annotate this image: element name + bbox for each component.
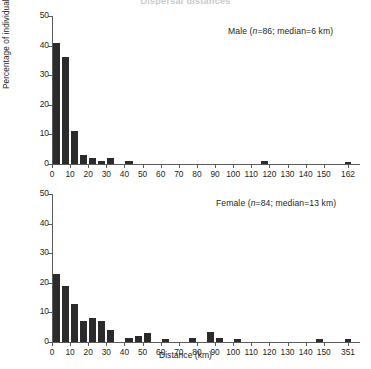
x-tick-male-50: [143, 165, 144, 168]
x-tick-male-140: [306, 165, 307, 168]
x-tick-female-70: [179, 343, 180, 346]
x-tick-male-10: [70, 165, 71, 168]
y-tick-label-male-30: 30: [40, 69, 49, 80]
x-axis-female: [52, 342, 360, 343]
bar-male-5-10: [62, 57, 69, 164]
y-tick-label-wrap: 10: [52, 312, 53, 313]
legend-male-prefix: Male (: [228, 26, 252, 36]
bar-male-15-20: [80, 155, 87, 164]
bar-female-85-90: [207, 332, 214, 342]
x-tick-female-50: [143, 343, 144, 346]
bar-female-20-25: [89, 318, 96, 342]
y-tick-label-wrap: 40: [52, 46, 53, 47]
bar-male-115-120: [261, 161, 268, 164]
bar-male-160-165: [345, 162, 351, 164]
y-tick-label-male-10: 10: [40, 128, 49, 139]
panel-divider: [0, 186, 371, 189]
plot-area-female: 0102030405001020304050607080901001101201…: [52, 194, 360, 342]
x-tick-label-male-140: 140: [299, 169, 313, 180]
x-tick-female-130: [288, 343, 289, 346]
x-tick-label-male-90: 90: [210, 169, 219, 180]
x-tick-label-male-70: 70: [174, 169, 183, 180]
bar-female-145-150: [316, 339, 323, 342]
x-tick-label-male-80: 80: [192, 169, 201, 180]
bars-female: [52, 194, 360, 342]
x-tick-male-60: [161, 165, 162, 168]
bar-female-60-65: [162, 339, 169, 342]
y-tick-label-wrap: 40: [52, 224, 53, 225]
x-tick-male-130: [288, 165, 289, 168]
x-tick-label-male-30: 30: [102, 169, 111, 180]
x-tick-label-male-110: 110: [245, 169, 258, 180]
x-tick-male-80: [197, 165, 198, 168]
y-tick-label-male-0: 0: [44, 158, 49, 169]
x-tick-male-150: [324, 165, 325, 168]
x-tick-label-male-130: 130: [281, 169, 295, 180]
x-tick-label-male-100: 100: [226, 169, 240, 180]
y-tick-label-wrap: 20: [52, 105, 53, 106]
bar-female-45-50: [135, 336, 142, 342]
bar-female-160-165: [345, 339, 351, 342]
x-tick-female-351: [348, 343, 349, 346]
x-tick-label-male-0: 0: [50, 169, 55, 180]
x-tick-female-20: [88, 343, 89, 346]
y-tick-label-female-20: 20: [40, 277, 49, 288]
legend-male: Male (n=86; median=6 km): [228, 26, 333, 36]
figure: Dispersal distances Percentage of indivi…: [0, 0, 371, 369]
y-axis-label-text: Percentage of individuals: [2, 0, 11, 112]
x-tick-female-10: [70, 343, 71, 346]
bar-female-75-80: [189, 338, 196, 342]
x-tick-male-162: [348, 165, 349, 168]
bar-female-90-95: [216, 338, 223, 342]
bar-male-25-30: [98, 161, 105, 164]
y-tick-label-wrap: 30: [52, 253, 53, 254]
bars-male: [52, 16, 360, 164]
x-tick-male-30: [106, 165, 107, 168]
x-tick-male-90: [215, 165, 216, 168]
x-tick-male-110: [251, 165, 252, 168]
bar-female-100-105: [234, 339, 241, 342]
y-tick-label-wrap: 50: [52, 194, 53, 195]
x-tick-label-male-150: 150: [317, 169, 331, 180]
legend-female-prefix: Female (: [216, 198, 251, 208]
y-tick-label-wrap: 10: [52, 134, 53, 135]
bar-female-40-45: [125, 338, 132, 342]
bar-male-30-35: [107, 158, 114, 164]
bar-male-10-15: [71, 131, 78, 164]
y-tick-label-wrap: 30: [52, 75, 53, 76]
x-axis-label: Distance (km): [0, 350, 371, 360]
x-tick-female-90: [215, 343, 216, 346]
bar-male-0-5: [53, 43, 60, 164]
y-tick-label-female-40: 40: [40, 218, 49, 229]
x-tick-female-60: [161, 343, 162, 346]
y-tick-label-female-50: 50: [40, 188, 49, 199]
x-tick-female-120: [269, 343, 270, 346]
x-tick-male-70: [179, 165, 180, 168]
x-tick-female-150: [324, 343, 325, 346]
legend-female: Female (n=84; median=13 km): [216, 198, 336, 208]
y-axis-label: Percentage of individuals: [2, 0, 14, 112]
x-tick-female-40: [124, 343, 125, 346]
y-tick-label-male-50: 50: [40, 10, 49, 21]
figure-title-remnant: Dispersal distances: [0, 0, 371, 5]
x-tick-label-male-60: 60: [156, 169, 165, 180]
x-tick-male-0: [52, 165, 53, 168]
y-tick-label-male-40: 40: [40, 40, 49, 51]
x-axis-male: [52, 164, 360, 165]
y-tick-label-female-0: 0: [44, 336, 49, 347]
y-tick-label-wrap: 50: [52, 16, 53, 17]
bar-female-30-35: [107, 330, 114, 342]
x-tick-label-male-20: 20: [84, 169, 93, 180]
x-tick-label-male-40: 40: [120, 169, 129, 180]
x-tick-male-100: [233, 165, 234, 168]
y-tick-label-female-10: 10: [40, 306, 49, 317]
x-tick-label-male-120: 120: [262, 169, 276, 180]
y-tick-label-wrap: 20: [52, 283, 53, 284]
bar-female-0-5: [53, 274, 60, 342]
x-tick-label-male-50: 50: [138, 169, 147, 180]
x-tick-female-30: [106, 343, 107, 346]
bar-female-10-15: [71, 304, 78, 342]
legend-female-suffix: =84; median=13 km): [256, 198, 337, 208]
x-tick-female-80: [197, 343, 198, 346]
plot-area-male: 0102030405001020304050607080901001101201…: [52, 16, 360, 164]
